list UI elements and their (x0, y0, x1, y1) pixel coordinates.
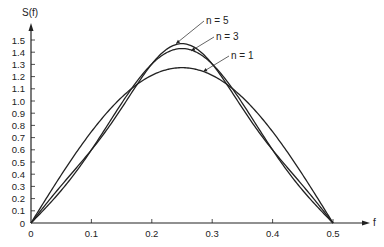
y-tick-label: 1.0 (12, 96, 25, 107)
annotation-label: n = 3 (216, 31, 239, 42)
x-tick-label: 0.3 (206, 228, 219, 239)
x-tick-label: 0.1 (85, 228, 98, 239)
annotation-label: n = 1 (231, 50, 254, 61)
y-axis: 00.10.20.30.40.50.60.70.80.91.01.11.21.3… (12, 23, 35, 229)
y-tick-label: 1.1 (12, 83, 25, 94)
curve-n3 (31, 49, 333, 223)
chart: 00.10.20.30.40.50.60.70.80.91.01.11.21.3… (0, 0, 384, 247)
y-tick-label: 1.3 (12, 59, 25, 70)
y-axis-arrow-icon (29, 23, 34, 31)
y-axis-label: S(f) (22, 7, 38, 18)
leader-line (191, 37, 214, 51)
annotations: n = 5n = 3n = 1 (176, 15, 254, 72)
x-axis: 00.10.20.30.40.5 (28, 219, 370, 239)
annotation-label: n = 5 (206, 15, 229, 26)
y-tick-label: 0.2 (12, 193, 25, 204)
y-tick-label: 0.3 (12, 181, 25, 192)
x-axis-arrow-icon (362, 221, 370, 226)
y-tick-label: 1.4 (12, 47, 25, 58)
x-tick-label: 0.5 (326, 228, 339, 239)
x-axis-label: f (373, 217, 376, 228)
leader-line (176, 21, 204, 44)
y-tick-label: 0.6 (12, 144, 25, 155)
curve-n1 (31, 68, 333, 223)
y-tick-label: 0.8 (12, 120, 25, 131)
plot-area (31, 44, 333, 223)
x-tick-label: 0.4 (266, 228, 279, 239)
y-tick-label: 0.5 (12, 157, 25, 168)
arrowhead-icon (203, 68, 207, 72)
y-tick-label: 0.1 (12, 205, 25, 216)
x-tick-label: 0.2 (145, 228, 158, 239)
y-tick-label: 1.2 (12, 71, 25, 82)
y-tick-label: 0.7 (12, 132, 25, 143)
y-tick-label: 0.4 (12, 169, 25, 180)
y-tick-label: 1.5 (12, 35, 25, 46)
curve-n5 (31, 44, 333, 223)
x-tick-label: 0 (28, 228, 33, 239)
y-tick-label: 0.9 (12, 108, 25, 119)
y-tick-label: 0 (20, 218, 25, 229)
